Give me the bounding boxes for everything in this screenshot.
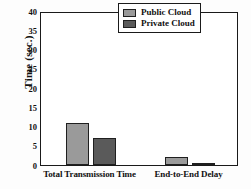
y-tick-label: 15 — [15, 104, 37, 113]
y-axis-title: Time (sec.) — [22, 32, 34, 92]
y-tick-label: 5 — [15, 142, 37, 151]
y-tick-label: 30 — [15, 46, 37, 55]
y-tick-label: 35 — [15, 27, 37, 36]
bar — [93, 138, 116, 165]
chart-figure: Time (sec.) 0510152025303540 Total Trans… — [0, 0, 251, 189]
bar — [192, 163, 215, 165]
y-tick-label: 40 — [15, 8, 37, 17]
bar — [66, 123, 89, 165]
legend-swatch-icon — [123, 20, 136, 28]
legend-label: Public Cloud — [141, 8, 191, 17]
legend-label: Private Cloud — [141, 19, 195, 28]
bar — [165, 157, 188, 165]
legend-item: Private Cloud — [123, 18, 195, 29]
chart-legend: Public CloudPrivate Cloud — [118, 3, 201, 33]
x-tick-label: End-to-End Delay — [129, 169, 249, 179]
legend-item: Public Cloud — [123, 7, 195, 18]
legend-swatch-icon — [123, 9, 136, 17]
y-tick-label: 25 — [15, 65, 37, 74]
y-tick-label: 20 — [15, 85, 37, 94]
y-tick-label: 10 — [15, 123, 37, 132]
plot-area — [40, 12, 238, 166]
